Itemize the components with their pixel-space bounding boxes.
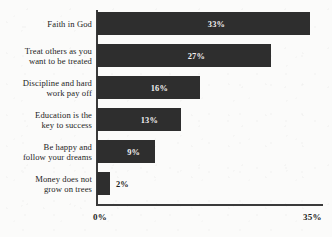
bar-row: Be happy and follow your dreams9% — [0, 140, 332, 163]
x-axis-line — [96, 204, 323, 206]
bar-value-label: 16% — [151, 83, 168, 92]
category-label: Discipline and hard work pay off — [0, 77, 92, 97]
bar — [97, 140, 155, 163]
x-tick-label-0: 0% — [93, 212, 107, 222]
bar — [97, 172, 110, 195]
bar — [97, 44, 271, 67]
x-tick-label-35: 35% — [303, 212, 322, 222]
bar-value-label: 9% — [127, 147, 140, 156]
bar — [97, 108, 181, 131]
category-label: Education is the key to success — [0, 109, 92, 129]
category-label: Money does not grow on trees — [0, 173, 92, 193]
bar — [97, 12, 310, 35]
bar-value-label: 13% — [141, 115, 158, 124]
bar-value-label: 33% — [208, 19, 225, 28]
bar-row: Treat others as you want to be treated27… — [0, 44, 332, 67]
bar-value-label: 2% — [116, 179, 129, 188]
category-label: Be happy and follow your dreams — [0, 141, 92, 161]
bar-chart: Faith in God33%Treat others as you want … — [0, 0, 332, 237]
category-label: Treat others as you want to be treated — [0, 45, 92, 65]
bar-row: Education is the key to success13% — [0, 108, 332, 131]
bar-row: Money does not grow on trees2% — [0, 172, 332, 195]
bar-value-label: 27% — [188, 51, 205, 60]
bar-row: Faith in God33% — [0, 12, 332, 35]
category-label: Faith in God — [0, 18, 92, 28]
bar — [97, 76, 200, 99]
bar-row: Discipline and hard work pay off16% — [0, 76, 332, 99]
